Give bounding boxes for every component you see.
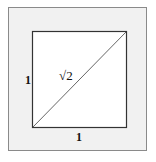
left-side-label: 1 xyxy=(25,73,31,88)
bottom-side-label: 1 xyxy=(76,130,82,145)
diagonal-label: √2 xyxy=(59,68,73,84)
